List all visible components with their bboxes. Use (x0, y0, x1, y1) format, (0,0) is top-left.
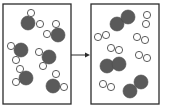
hydrogen-atom (12, 78, 19, 85)
hydrogen-atom (7, 42, 14, 49)
hydrogen-atom (36, 20, 43, 27)
hydrogen-atom (133, 33, 140, 40)
diagram-canvas (0, 0, 176, 108)
hydrogen-atom (27, 9, 34, 16)
oxygen-atom (134, 75, 148, 89)
oxygen-atom (42, 50, 56, 64)
hydrogen-atom (143, 54, 150, 61)
hydrogen-atom (143, 11, 150, 18)
hydrogen-atom (43, 30, 50, 37)
hydrogen-atom (107, 44, 114, 51)
reaction-arrow (71, 52, 90, 57)
oxygen-atom (121, 10, 135, 24)
hydrogen-atom (35, 48, 42, 55)
oxygen-atom (112, 57, 126, 71)
hydrogen-atom (107, 83, 114, 90)
hydrogen-atom (12, 56, 19, 63)
hydrogen-atom (141, 36, 148, 43)
hydrogen-atom (39, 62, 46, 69)
oxygen-atom (123, 84, 137, 98)
hydrogen-atom (142, 20, 149, 27)
arrow-head-icon (85, 52, 90, 57)
oxygen-atom (21, 16, 35, 30)
oxygen-atom (19, 71, 33, 85)
oxygen-atom (51, 28, 65, 42)
oxygen-atom (100, 59, 114, 73)
hydrogen-atom (16, 65, 23, 72)
hydrogen-atom (94, 33, 101, 40)
reaction-diagram (0, 0, 176, 108)
hydrogen-atom (99, 80, 106, 87)
oxygen-atom (14, 43, 28, 57)
hydrogen-atom (115, 46, 122, 53)
oxygen-atom (46, 79, 60, 93)
hydrogen-atom (52, 70, 59, 77)
hydrogen-atom (52, 20, 59, 27)
hydrogen-atom (102, 31, 109, 38)
hydrogen-atom (135, 51, 142, 58)
hydrogen-atom (60, 83, 67, 90)
